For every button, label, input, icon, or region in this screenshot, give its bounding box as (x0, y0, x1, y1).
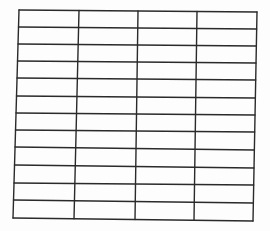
column-line (74, 11, 79, 219)
table-grid (0, 0, 270, 231)
row-line (16, 130, 255, 132)
column-line (135, 11, 138, 220)
row-line (13, 218, 253, 221)
row-line (15, 165, 255, 168)
column-line (253, 12, 257, 221)
row-line (14, 200, 254, 203)
column-line (194, 12, 197, 221)
column-lines (13, 10, 257, 221)
row-line (15, 147, 254, 150)
row-line (17, 96, 256, 98)
row-line (14, 183, 254, 185)
row-line (16, 113, 255, 115)
column-line (13, 10, 19, 218)
